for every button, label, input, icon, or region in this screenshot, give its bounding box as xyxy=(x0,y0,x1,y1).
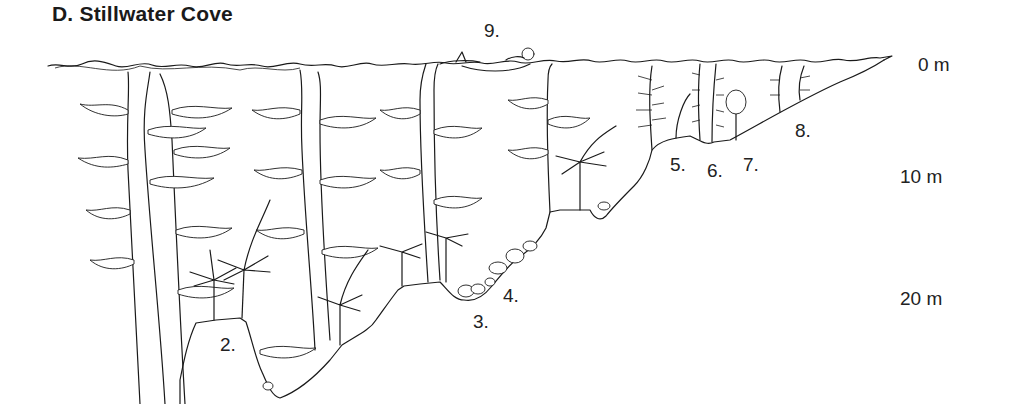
zone-label-2: 2. xyxy=(220,334,236,356)
depth-label-20m: 20 m xyxy=(900,288,942,310)
sea-otter-and-boat xyxy=(440,48,534,71)
kelp-blades-middle xyxy=(380,98,590,208)
boulders xyxy=(263,202,610,390)
water-surface-line xyxy=(48,56,892,67)
understory-kelp xyxy=(190,126,616,345)
kelp-forest-cross-section xyxy=(0,0,1012,404)
zone-label-5: 5. xyxy=(670,154,686,176)
zone-label-7: 7. xyxy=(743,154,759,176)
zone-label-3: 3. xyxy=(473,311,489,333)
zone-label-6: 6. xyxy=(707,160,723,182)
depth-label-10m: 10 m xyxy=(900,166,942,188)
algae-fronds xyxy=(636,73,810,127)
depth-label-0m: 0 m xyxy=(918,54,950,76)
zone-label-8: 8. xyxy=(795,120,811,142)
zone-label-9: 9. xyxy=(484,20,500,42)
kelp-blades xyxy=(78,104,378,358)
zone-label-4: 4. xyxy=(503,285,519,307)
fan-algae xyxy=(726,90,746,114)
